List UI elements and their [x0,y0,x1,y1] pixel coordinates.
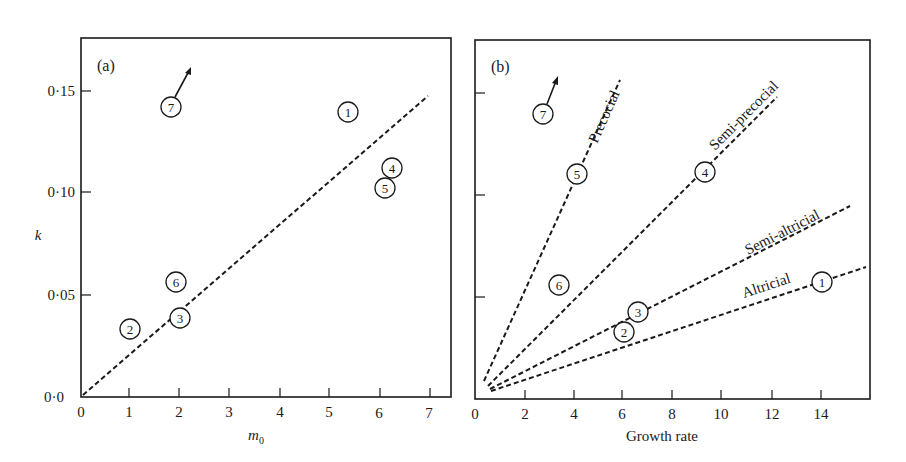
x-tick-label: 0 [77,404,85,420]
y-tick-label: 0·15 [48,83,76,99]
fit-line [83,96,428,395]
x-tick-label: 2 [175,404,183,420]
x-tick-label: 12 [765,406,780,422]
data-point-3: 3 [628,302,648,322]
arrow-icon [547,81,556,104]
svg-text:4: 4 [702,165,709,180]
x-tick-label: 0 [471,406,479,422]
x-tick-label: 8 [668,406,676,422]
data-point-2: 2 [614,322,634,342]
data-point-2: 2 [120,319,140,339]
panel-a: 0·15 0·10 0·05 0·0 0 1 2 3 4 5 6 7 k m0 … [35,38,451,446]
y-tick-label: 0·05 [48,287,76,303]
svg-text:7: 7 [168,100,175,115]
altricial-line [491,267,866,391]
svg-text:6: 6 [556,278,563,293]
data-point-1: 1 [338,102,358,122]
panel-label: (b) [491,58,510,76]
semi-precocial-label: Semi-precocial [706,78,782,154]
data-point-6: 6 [166,272,186,292]
data-point-7: 7 [161,97,181,117]
svg-text:7: 7 [540,107,547,122]
svg-text:6: 6 [173,275,180,290]
data-point-4: 4 [382,158,402,178]
y-tick-label: 0·0 [44,389,64,405]
svg-text:2: 2 [621,325,628,340]
svg-text:5: 5 [574,167,581,182]
x-tick-label: 5 [325,404,333,420]
data-point-5: 5 [375,178,395,198]
svg-text:1: 1 [819,275,826,290]
x-tick-label: 6 [375,405,383,421]
y-axis-title: k [35,227,42,243]
precocial-label: Precocial [585,88,623,145]
arrowhead-icon [552,76,558,85]
x-tick-label: 14 [814,406,830,422]
semi-precocial-line [488,97,777,386]
semi-altricial-label: Semi-altricial [742,206,822,257]
x-tick-label: 4 [570,406,578,422]
data-point-3: 3 [170,308,190,328]
panel-a-frame [81,38,451,397]
panel-label: (a) [97,57,115,75]
svg-text:1: 1 [345,105,352,120]
data-point-6: 6 [549,275,569,295]
svg-text:5: 5 [382,181,389,196]
svg-text:2: 2 [127,322,134,337]
x-axis-title: Growth rate [626,428,698,444]
svg-text:3: 3 [177,311,184,326]
x-tick-label: 1 [125,404,133,420]
altricial-label: Altricial [740,270,792,301]
data-point-7: 7 [533,104,553,124]
x-tick-label: 3 [225,404,233,420]
x-tick-label: 10 [714,406,729,422]
data-point-5: 5 [567,164,587,184]
panel-b: 0 2 4 6 8 10 12 14 Growth rate (b) Preco… [471,40,870,444]
arrowhead-icon [185,67,191,75]
x-tick-label: 6 [618,406,626,422]
y-tick-label: 0·10 [48,184,76,200]
x-axis-title: m0 [248,427,264,446]
svg-text:4: 4 [389,161,396,176]
x-tick-label: 2 [521,406,529,422]
svg-text:3: 3 [635,305,642,320]
x-tick-label: 7 [425,405,433,421]
x-tick-label: 4 [276,404,284,420]
data-point-4: 4 [695,162,715,182]
data-point-1: 1 [812,272,832,292]
arrow-icon [175,71,189,97]
figure: 0·15 0·10 0·05 0·0 0 1 2 3 4 5 6 7 k m0 … [0,0,906,462]
